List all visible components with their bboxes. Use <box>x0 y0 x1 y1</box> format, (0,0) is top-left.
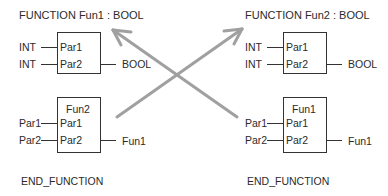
left-input-type-2: INT <box>19 58 36 70</box>
left-call-pin-1: Par1 <box>60 117 82 129</box>
right-call-name: Fun1 <box>292 103 316 115</box>
left-output-type: BOOL <box>122 58 151 70</box>
right-call-output: Fun1 <box>348 135 372 147</box>
left-call-name: Fun2 <box>66 103 90 115</box>
arrow-to-fun2 <box>117 29 242 117</box>
left-decl-pin-1: Par1 <box>60 41 82 53</box>
left-end-function: END_FUNCTION <box>21 175 103 187</box>
left-call-var-2: Par2 <box>19 134 41 146</box>
right-input-type-1: INT <box>245 41 262 53</box>
left-function-header: FUNCTION Fun1 : BOOL <box>19 9 144 21</box>
right-decl-pin-1: Par1 <box>286 41 308 53</box>
right-end-function: END_FUNCTION <box>247 175 329 187</box>
right-call-var-1: Par1 <box>245 117 267 129</box>
right-output-type: BOOL <box>348 58 377 70</box>
left-call-pin-2: Par2 <box>60 134 82 146</box>
right-input-type-2: INT <box>245 58 262 70</box>
diagram-lines <box>0 0 388 196</box>
right-call-pin-1: Par1 <box>286 117 308 129</box>
right-decl-pin-2: Par2 <box>286 58 308 70</box>
right-call-var-2: Par2 <box>245 134 267 146</box>
right-call-pin-2: Par2 <box>286 134 308 146</box>
left-call-output: Fun1 <box>122 135 146 147</box>
left-input-type-1: INT <box>19 41 36 53</box>
arrow-to-fun1 <box>113 30 237 117</box>
right-function-header: FUNCTION Fun2 : BOOL <box>245 9 370 21</box>
left-decl-pin-2: Par2 <box>60 58 82 70</box>
left-call-var-1: Par1 <box>19 117 41 129</box>
